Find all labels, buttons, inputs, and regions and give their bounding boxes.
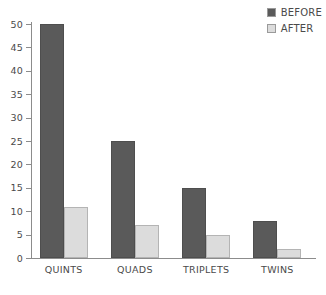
- bar-triplets-before: [182, 188, 206, 258]
- x-axis-label-quints: QUINTS: [26, 264, 102, 275]
- x-axis-label-triplets: TRIPLETS: [168, 264, 244, 275]
- plot-area: 05101520253035404550 QUINTSQUADSTRIPLETS…: [0, 0, 326, 295]
- x-axis-label-twins: TWINS: [239, 264, 315, 275]
- bar-triplets-after: [206, 235, 230, 258]
- bar-quads-after: [135, 225, 159, 258]
- bar-quints-before: [40, 24, 64, 258]
- bar-chart: BEFORE AFTER 05101520253035404550 QUINTS…: [0, 0, 326, 295]
- bar-twins-before: [253, 221, 277, 258]
- bar-quads-before: [111, 141, 135, 258]
- bar-twins-after: [277, 249, 301, 258]
- bars-layer: [0, 0, 326, 295]
- bar-quints-after: [64, 207, 88, 258]
- x-axis-label-quads: QUADS: [97, 264, 173, 275]
